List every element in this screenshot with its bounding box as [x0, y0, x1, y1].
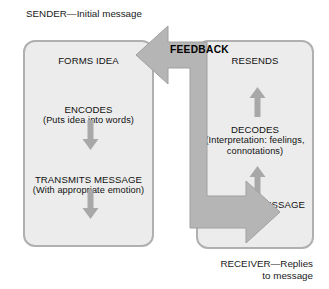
- node-resends-title: RESENDS: [198, 55, 312, 66]
- node-decodes-title: DECODES: [198, 124, 312, 135]
- feedback-label: FEEDBACK: [170, 44, 229, 55]
- communication-process-diagram: SENDER—Initial message FORMS IDEA ENCODE…: [0, 0, 329, 289]
- up-arrow-icon: [249, 166, 266, 196]
- node-forms-idea-title: FORMS IDEA: [25, 55, 152, 66]
- up-arrow-icon: [249, 87, 266, 117]
- receiver-caption: RECEIVER—Replies to message: [198, 258, 313, 281]
- node-receives-message: RECEIVES MESSAGE: [198, 199, 312, 210]
- down-arrow-icon: [82, 120, 99, 150]
- down-arrow-icon: [82, 189, 99, 219]
- node-decodes: DECODES (Interpretation: feelings, conno…: [198, 124, 312, 158]
- node-transmits-message-title: TRANSMITS MESSAGE: [25, 174, 152, 185]
- node-receives-message-title: RECEIVES MESSAGE: [198, 199, 312, 210]
- node-resends: RESENDS: [198, 55, 312, 66]
- node-forms-idea: FORMS IDEA: [25, 55, 152, 66]
- node-decodes-detail: (Interpretation: feelings, connotations): [198, 135, 312, 157]
- receiver-box: RESENDS DECODES (Interpretation: feeling…: [196, 40, 314, 249]
- sender-caption: SENDER—Initial message: [26, 8, 142, 20]
- node-encodes-title: ENCODES: [25, 104, 152, 115]
- sender-box: FORMS IDEA ENCODES (Puts idea into words…: [23, 40, 154, 247]
